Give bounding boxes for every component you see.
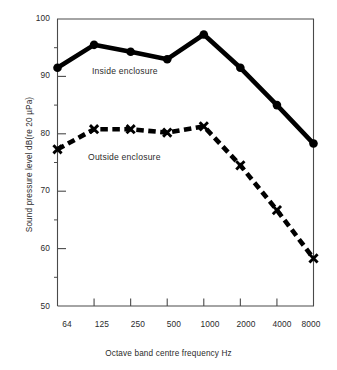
series-outside-enclosure — [53, 122, 317, 262]
series-annotation-inside: Inside enclosure — [92, 66, 158, 76]
y-tick-label-100: 100 — [22, 13, 50, 23]
y-tick-label-50: 50 — [22, 301, 50, 311]
x-tick-label-8000: 8000 — [288, 319, 334, 329]
y-tick-label-80: 80 — [22, 128, 50, 138]
plot-area — [0, 0, 337, 370]
y-tick-label-70: 70 — [22, 185, 50, 195]
y-tick-label-90: 90 — [22, 70, 50, 80]
x-axis-ticks — [94, 299, 277, 307]
axis-frame — [58, 19, 314, 306]
y-axis-ticks — [54, 48, 66, 278]
y-tick-label-60: 60 — [22, 243, 50, 253]
series-annotation-outside: Outside enclosure — [88, 152, 161, 162]
chart-figure: Sound pressure level dB(re 20 µPa) 100 9… — [0, 0, 337, 370]
x-axis-title: Octave band centre frequency Hz — [0, 349, 337, 358]
